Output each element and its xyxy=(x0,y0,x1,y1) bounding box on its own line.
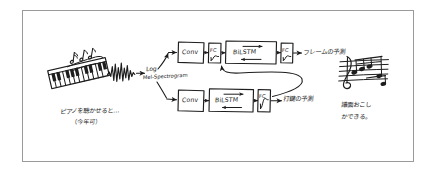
arrow-spec-to-bottom-conv xyxy=(157,82,167,98)
top-conv-label: Conv xyxy=(182,49,199,56)
output-caption-line1: 譜面おこし xyxy=(341,102,372,109)
ink-drawing-layer xyxy=(0,0,437,175)
output-caption-line2: かできる。 xyxy=(341,114,372,121)
top-bilstm-label: BiLSTM xyxy=(233,49,257,56)
top-fc-2-label: FC xyxy=(282,48,289,54)
bottom-conv-label: Conv xyxy=(182,97,199,104)
music-staff-icon xyxy=(339,56,389,88)
spectrogram-label-line1: Log xyxy=(146,66,157,73)
sketch-canvas: ピアノを聴かせると… （今年可） Log Mel-Spectrogram Con… xyxy=(0,0,437,175)
arrow-spec-to-top-conv xyxy=(158,54,168,70)
feedback-connection-arrow xyxy=(222,66,303,97)
bottom-fc-label: FC xyxy=(259,94,266,100)
top-fc-1-label: FC xyxy=(210,48,217,54)
arrow-into-bottom-conv xyxy=(167,99,177,100)
input-caption-line1: ピアノを聴かせると… xyxy=(60,107,120,115)
input-caption-line2: （今年可） xyxy=(71,119,102,126)
audio-waveform-icon xyxy=(108,63,135,82)
bottom-bilstm-label: BiLSTM xyxy=(215,97,239,104)
top-output-label: フレームの予測 xyxy=(303,48,346,56)
bottom-output-label: 打鍵の予測 xyxy=(283,96,314,103)
